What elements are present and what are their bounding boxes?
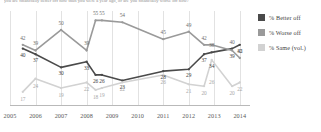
data-label: 20 bbox=[230, 91, 235, 96]
x-tick-2014: 2014 bbox=[233, 112, 246, 119]
data-point bbox=[85, 81, 87, 83]
data-label: 22 bbox=[120, 88, 125, 93]
data-point bbox=[60, 66, 62, 68]
data-label: 22 bbox=[237, 88, 242, 93]
data-point bbox=[85, 49, 87, 51]
data-point bbox=[203, 44, 205, 46]
x-tick-2010: 2010 bbox=[131, 112, 144, 119]
data-point bbox=[121, 21, 123, 23]
data-label: 30 bbox=[58, 72, 63, 77]
data-label: 19 bbox=[58, 93, 63, 98]
data-label: 24 bbox=[33, 84, 38, 89]
data-label: 17 bbox=[20, 97, 25, 102]
data-label: 40 bbox=[20, 53, 25, 58]
data-point bbox=[231, 85, 233, 87]
x-axis-line bbox=[10, 105, 250, 106]
data-label: 26 bbox=[209, 80, 214, 85]
data-label: 21 bbox=[186, 90, 191, 95]
data-label: 42 bbox=[201, 36, 206, 41]
data-label: 55 bbox=[93, 12, 98, 17]
data-point bbox=[22, 44, 24, 46]
x-tick-2008: 2008 bbox=[80, 112, 93, 119]
data-point bbox=[34, 78, 36, 80]
data-point bbox=[85, 61, 87, 63]
data-label: 35 bbox=[237, 49, 242, 54]
data-point bbox=[22, 47, 24, 49]
data-label: 38 bbox=[209, 44, 214, 49]
data-label: 55 bbox=[99, 12, 104, 17]
plot-area: 4240173937245030193933225555262618195423… bbox=[10, 11, 250, 105]
data-point bbox=[101, 19, 103, 21]
data-label: 50 bbox=[58, 21, 63, 26]
legend-swatch-icon bbox=[258, 29, 265, 36]
data-label: 26 bbox=[161, 80, 166, 85]
data-point bbox=[162, 38, 164, 40]
legend-label: % Worse off bbox=[269, 29, 301, 36]
data-point bbox=[211, 59, 213, 61]
data-label: 19 bbox=[99, 93, 104, 98]
data-label: 54 bbox=[120, 14, 125, 19]
legend-item[interactable]: % Better off bbox=[258, 14, 306, 21]
data-label: 20 bbox=[201, 91, 206, 96]
chart-legend: % Better off% Worse off% Same (vol.) bbox=[258, 14, 306, 51]
data-point bbox=[94, 19, 96, 21]
data-label: 45 bbox=[161, 30, 166, 35]
data-label: 29 bbox=[186, 74, 191, 79]
data-label: 49 bbox=[186, 23, 191, 28]
data-label: 22 bbox=[84, 88, 89, 93]
data-point bbox=[34, 53, 36, 55]
legend-label: % Same (vol.) bbox=[269, 44, 306, 51]
data-point bbox=[188, 68, 190, 70]
data-label: 26 bbox=[93, 79, 98, 84]
data-point bbox=[22, 91, 24, 93]
data-point bbox=[211, 51, 213, 53]
series-lines bbox=[10, 11, 250, 105]
data-label: 42 bbox=[20, 36, 25, 41]
data-point bbox=[60, 29, 62, 31]
data-label: 40 bbox=[230, 40, 235, 45]
data-label: 39 bbox=[230, 55, 235, 60]
legend-item[interactable]: % Worse off bbox=[258, 29, 306, 36]
x-tick-2012: 2012 bbox=[182, 112, 195, 119]
x-tick-2009: 2009 bbox=[106, 112, 119, 119]
data-point bbox=[231, 49, 233, 51]
legend-label: % Better off bbox=[269, 14, 301, 21]
data-point bbox=[203, 53, 205, 55]
legend-swatch-icon bbox=[258, 44, 265, 51]
legend-item[interactable]: % Same (vol.) bbox=[258, 44, 306, 51]
x-tick-2005: 2005 bbox=[4, 112, 17, 119]
x-tick-2007: 2007 bbox=[55, 112, 68, 119]
data-point bbox=[101, 87, 103, 89]
chart-root: you are financially better off now than … bbox=[0, 0, 321, 132]
line-worse-off bbox=[23, 20, 240, 58]
x-tick-2006: 2006 bbox=[29, 112, 42, 119]
data-point bbox=[162, 70, 164, 72]
data-point bbox=[101, 74, 103, 76]
data-point bbox=[188, 83, 190, 85]
survey-question: you are financially better off now than … bbox=[4, 0, 319, 4]
data-point bbox=[94, 74, 96, 76]
data-point bbox=[34, 49, 36, 51]
data-point bbox=[60, 87, 62, 89]
data-point bbox=[239, 44, 241, 46]
data-label: 34 bbox=[209, 64, 214, 69]
data-point bbox=[188, 31, 190, 33]
data-point bbox=[239, 57, 241, 59]
data-label: 33 bbox=[84, 66, 89, 71]
data-label: 37 bbox=[201, 59, 206, 64]
data-label: 39 bbox=[33, 42, 38, 47]
data-label: 37 bbox=[33, 59, 38, 64]
legend-swatch-icon bbox=[258, 14, 265, 21]
data-point bbox=[203, 85, 205, 87]
x-tick-2011: 2011 bbox=[157, 112, 170, 119]
data-point bbox=[94, 89, 96, 91]
data-label: 26 bbox=[99, 79, 104, 84]
data-label: 18 bbox=[93, 95, 98, 100]
data-label: 39 bbox=[84, 42, 89, 47]
data-point bbox=[239, 81, 241, 83]
x-tick-2013: 2013 bbox=[208, 112, 221, 119]
